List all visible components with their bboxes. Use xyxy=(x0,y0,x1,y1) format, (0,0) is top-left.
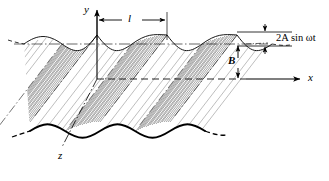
surface-hatching xyxy=(0,35,264,137)
top-wave-right-extension xyxy=(272,44,290,45)
figure-drawing xyxy=(0,0,329,181)
y-axis-label: y xyxy=(84,4,89,15)
corrugated-surface-figure: y x z l B 2A sin ωt xyxy=(0,0,329,181)
x-axis-label: x xyxy=(308,72,313,83)
depth-label: B xyxy=(228,55,235,66)
bottom-wave-curve xyxy=(30,124,205,138)
wavelength-label: l xyxy=(128,13,131,24)
bottom-wave-right-extension xyxy=(205,131,228,135)
bottom-wave-left-extension xyxy=(12,131,30,137)
amplitude-label: 2A sin ωt xyxy=(276,33,316,44)
top-wave-left-extension xyxy=(8,40,24,44)
z-axis-label: z xyxy=(58,150,62,161)
